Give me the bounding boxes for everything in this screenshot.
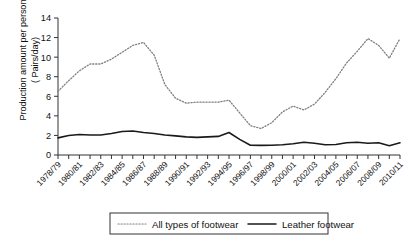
legend-label-leather-footwear: Leather footwear	[282, 219, 355, 230]
legend-label-all-footwear: All types of footwear	[152, 219, 239, 230]
chart-legend: All types of footwear Leather footwear	[110, 213, 355, 234]
y-tick-label: 0	[46, 150, 51, 160]
x-axis-ticks	[58, 155, 400, 159]
series-line-all-types-of-footwear	[58, 39, 400, 129]
y-tick-label: 14	[41, 13, 51, 23]
footwear-production-chart: Production amount per person ( Pairs/day…	[0, 0, 417, 244]
data-series-group	[58, 39, 400, 146]
x-axis-tick-labels: 1978/791980/811982/831984/851986/871988/…	[34, 159, 405, 188]
chart-plot-area: 02468101214 1978/791980/811982/831984/85…	[0, 0, 417, 244]
y-axis-ticks: 02468101214	[41, 13, 58, 160]
y-tick-label: 2	[46, 131, 51, 141]
x-tick-label: 2010/11	[377, 159, 405, 187]
y-tick-label: 6	[46, 92, 51, 102]
y-tick-label: 12	[41, 33, 51, 43]
y-tick-label: 8	[46, 72, 51, 82]
y-tick-label: 10	[41, 53, 51, 63]
y-tick-label: 4	[46, 111, 51, 121]
series-line-leather-footwear	[58, 131, 400, 146]
